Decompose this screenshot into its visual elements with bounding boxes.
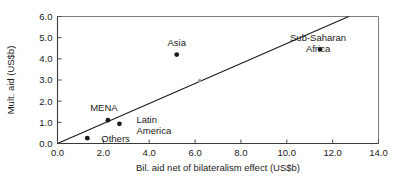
x-tick-label: 12.0 xyxy=(323,147,342,158)
data-point-marker xyxy=(198,79,201,82)
y-tick-label: 0.0 xyxy=(39,138,52,149)
data-point-label: Sub-SaharanAfrica xyxy=(290,32,346,54)
data-point-marker xyxy=(174,52,179,57)
chart-canvas: 0.02.04.06.08.010.012.014.0 0.01.02.03.0… xyxy=(0,0,400,183)
y-tick-label: 4.0 xyxy=(39,53,52,64)
data-point-label-line: Others xyxy=(101,133,130,144)
y-axis-title: Mult. aid (US$b) xyxy=(5,46,16,115)
y-tick-label: 3.0 xyxy=(39,74,52,85)
x-tick-label: 6.0 xyxy=(188,147,201,158)
data-point-label: LatinAmerica xyxy=(136,114,172,136)
data-point-labels: OthersMENALatinAmericaAsiaSub-SaharanAfr… xyxy=(90,32,346,144)
data-point-label-line: Sub-Saharan xyxy=(290,32,346,43)
data-point-label: MENA xyxy=(90,102,118,113)
data-point-marker xyxy=(117,121,122,126)
data-point-label: Others xyxy=(101,133,130,144)
x-tick-label: 14.0 xyxy=(369,147,388,158)
scatter-chart-figure: 0.02.04.06.08.010.012.014.0 0.01.02.03.0… xyxy=(0,0,400,183)
y-tick-label: 5.0 xyxy=(39,32,52,43)
y-tick-label: 1.0 xyxy=(39,117,52,128)
y-tick-label: 6.0 xyxy=(39,11,52,22)
x-axis-title: Bil. aid net of bilateralism effect (US$… xyxy=(136,162,300,173)
data-point-label-line: Latin xyxy=(136,114,157,125)
y-axis-ticks xyxy=(58,17,62,144)
x-tick-label: 8.0 xyxy=(234,147,247,158)
data-point-label-line: MENA xyxy=(90,102,118,113)
x-tick-label: 10.0 xyxy=(278,147,297,158)
x-tick-label: 4.0 xyxy=(143,147,156,158)
y-tick-label: 2.0 xyxy=(39,96,52,107)
x-tick-label: 2.0 xyxy=(97,147,110,158)
x-axis-tick-labels: 0.02.04.06.08.010.012.014.0 xyxy=(51,147,388,158)
x-tick-label: 0.0 xyxy=(51,147,64,158)
data-point-label-line: Asia xyxy=(167,37,186,48)
data-point-marker xyxy=(106,118,111,123)
data-point-label: Asia xyxy=(167,37,186,48)
data-point-marker xyxy=(85,136,90,141)
data-point-label-line: Africa xyxy=(306,43,331,54)
data-point-label-line: America xyxy=(136,125,172,136)
y-axis-tick-labels: 0.01.02.03.04.05.06.0 xyxy=(39,11,52,149)
data-point-markers xyxy=(85,47,323,141)
